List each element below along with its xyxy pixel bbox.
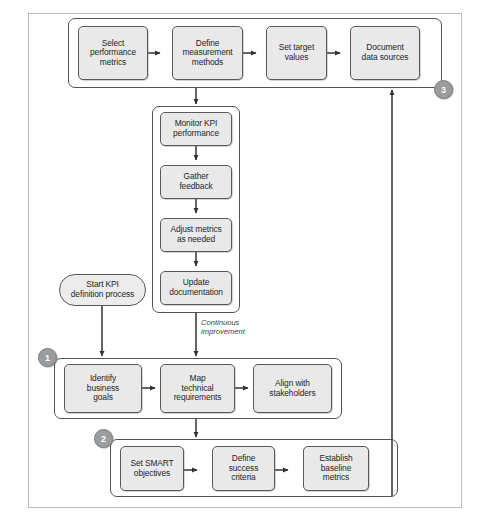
node-label: Establish baseline metrics: [319, 454, 352, 483]
terminator-label: Start KPI definition process: [71, 280, 134, 299]
node-establish-baseline-metrics[interactable]: Establish baseline metrics: [303, 446, 369, 491]
node-label: Monitor KPI performance: [173, 119, 219, 138]
node-line-2: as needed: [177, 234, 215, 244]
node-line-1: Map: [190, 373, 206, 383]
node-label: Map technical requirements: [174, 374, 222, 403]
node-label: Select performance metrics: [90, 39, 136, 68]
terminator-line-2: definition process: [71, 289, 134, 299]
node-set-target-values[interactable]: Set target values: [266, 26, 327, 80]
node-line-3: metrics: [323, 472, 349, 482]
node-identify-business-goals[interactable]: Identify business goals: [64, 364, 142, 413]
node-adjust-metrics-as-needed[interactable]: Adjust metrics as needed: [160, 218, 232, 252]
top-caption-fragment: [30, 0, 230, 8]
node-line-1: Update: [183, 277, 209, 287]
terminator-start-kpi-definition-process[interactable]: Start KPI definition process: [59, 274, 146, 306]
bottom-caption-fragment: [30, 512, 330, 521]
node-gather-feedback[interactable]: Gather feedback: [160, 165, 232, 199]
node-line-2: performance: [173, 128, 219, 138]
node-define-success-criteria[interactable]: Define success criteria: [212, 446, 275, 491]
node-line-1: Align with: [275, 378, 310, 388]
node-label: Document data sources: [362, 43, 409, 62]
node-line-2: stakeholders: [269, 388, 315, 398]
node-line-2: technical: [181, 383, 213, 393]
node-monitor-kpi-performance[interactable]: Monitor KPI performance: [160, 112, 232, 146]
node-line-2: feedback: [179, 181, 212, 191]
node-select-performance-metrics[interactable]: Select performance metrics: [78, 26, 148, 80]
node-line-1: Define: [196, 38, 220, 48]
node-line-3: criteria: [231, 472, 255, 482]
node-line-1: Select: [102, 38, 125, 48]
badge-2: 2: [94, 429, 113, 448]
badge-1: 1: [38, 348, 57, 367]
badge-label: 3: [441, 85, 446, 95]
annotation-line-1: Continuous: [201, 318, 239, 327]
node-line-2: performance: [90, 47, 136, 57]
badge-label: 1: [45, 353, 50, 363]
node-line-1: Establish: [319, 453, 352, 463]
badge-label: 2: [101, 434, 106, 444]
node-label: Update documentation: [169, 278, 223, 297]
node-line-1: Identify: [90, 373, 116, 383]
node-line-2: success: [229, 463, 259, 473]
node-map-technical-requirements[interactable]: Map technical requirements: [160, 364, 235, 413]
node-line-1: Document: [366, 42, 403, 52]
node-line-2: objectives: [134, 468, 170, 478]
node-label: Adjust metrics as needed: [170, 225, 221, 244]
annotation-line-2: improvement: [201, 327, 245, 336]
node-label: Identify business goals: [87, 374, 119, 403]
node-line-1: Set target: [279, 42, 314, 52]
node-line-2: baseline: [321, 463, 351, 473]
node-line-2: values: [285, 52, 309, 62]
node-line-3: requirements: [174, 392, 222, 402]
node-line-1: Define: [232, 453, 256, 463]
node-line-1: Set SMART: [130, 458, 173, 468]
node-label: Set SMART objectives: [130, 459, 173, 478]
node-align-with-stakeholders[interactable]: Align with stakeholders: [253, 364, 332, 413]
node-line-3: goals: [93, 392, 113, 402]
node-define-measurement-methods[interactable]: Define measurement methods: [172, 26, 243, 80]
node-line-1: Adjust metrics: [170, 224, 221, 234]
node-line-2: business: [87, 383, 119, 393]
node-label: Align with stakeholders: [269, 379, 315, 398]
node-document-data-sources[interactable]: Document data sources: [350, 26, 420, 80]
flowchart-diagram: Select performance metrics Define measur…: [0, 0, 486, 521]
node-line-2: documentation: [169, 287, 223, 297]
node-label: Gather feedback: [179, 172, 212, 191]
node-line-1: Gather: [183, 171, 208, 181]
node-label: Define measurement methods: [182, 39, 232, 68]
node-line-2: measurement: [182, 47, 232, 57]
node-update-documentation[interactable]: Update documentation: [160, 271, 232, 305]
node-label: Set target values: [279, 43, 314, 62]
node-label: Define success criteria: [229, 454, 259, 483]
annotation-continuous-improvement: Continuous improvement: [201, 319, 261, 337]
node-line-3: methods: [192, 57, 223, 67]
node-set-smart-objectives[interactable]: Set SMART objectives: [120, 446, 184, 491]
badge-3: 3: [434, 80, 453, 99]
terminator-line-1: Start KPI: [86, 279, 119, 289]
node-line-3: metrics: [100, 57, 126, 67]
node-line-1: Monitor KPI: [175, 118, 218, 128]
node-line-2: data sources: [362, 52, 409, 62]
